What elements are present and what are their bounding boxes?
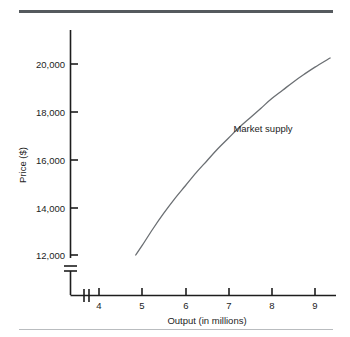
x-tick-marks (99, 288, 315, 296)
y-axis-title: Price ($) (17, 147, 28, 183)
x-tick-label-6: 6 (183, 300, 188, 311)
y-axis-break-icon (64, 266, 77, 271)
y-tick-label-12000: 12,000 (36, 250, 65, 261)
y-tick-label-16000: 16,000 (36, 155, 65, 166)
market-supply-label: Market supply (233, 123, 292, 134)
y-tick-marks (71, 64, 79, 255)
y-tick-label-14000: 14,000 (36, 203, 65, 214)
x-axis-title: Output (in millions) (167, 315, 246, 326)
supply-curve-figure: 20,000 18,000 16,000 14,000 12,000 Price… (0, 0, 350, 337)
x-tick-label-8: 8 (269, 300, 274, 311)
y-tick-label-20000: 20,000 (36, 59, 65, 70)
y-tick-label-18000: 18,000 (36, 107, 65, 118)
x-tick-label-9: 9 (312, 300, 317, 311)
chart-svg: 20,000 18,000 16,000 14,000 12,000 Price… (0, 0, 350, 337)
x-tick-label-4: 4 (96, 300, 101, 311)
market-supply-curve (136, 58, 330, 255)
x-tick-label-5: 5 (139, 300, 144, 311)
x-tick-label-7: 7 (226, 300, 231, 311)
